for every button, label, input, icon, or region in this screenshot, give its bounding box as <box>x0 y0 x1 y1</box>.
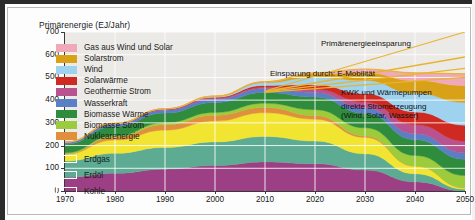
legend-swatch-icon <box>56 55 77 63</box>
legend-item-fossil-1[interactable]: Erdöl <box>56 167 110 183</box>
scan-edge-left <box>0 0 5 220</box>
legend-swatch-icon <box>56 88 77 96</box>
legend-item-3[interactable]: Solarwärme <box>56 75 173 86</box>
annotation-primaerenergieeinsparung: Primärenergieeinsparung <box>321 39 411 48</box>
legend: Gas aus Wind und SolarSolarstromWindSola… <box>56 42 173 142</box>
legend-swatch-icon <box>56 44 77 52</box>
legend-label: Solarwärme <box>84 76 128 85</box>
legend-swatch-icon <box>56 132 77 140</box>
annotation-e-mobilitaet: Einsparung durch: E-Mobilität <box>270 69 375 78</box>
x-tick-2050: 2050 <box>449 195 475 204</box>
annotation-direkte-stromerzeugung: direkte Stromerzeugung <box>341 102 426 111</box>
annotation-kwk-waermepumpen: KWK und Wärmepumpen <box>341 88 432 97</box>
y-tick-200: 200 <box>35 141 59 150</box>
legend-label: Kohle <box>84 187 105 196</box>
legend-swatch-icon <box>56 66 77 74</box>
scan-edge-top <box>0 0 475 4</box>
legend-swatch-outline-icon <box>56 171 77 179</box>
legend-label: Erdöl <box>84 171 103 180</box>
chart-screenshot: Primärenergie (EJ/Jahr) 7006005004003002… <box>0 0 475 220</box>
x-tick-2000: 2000 <box>199 195 231 204</box>
legend-swatch-icon <box>56 121 77 129</box>
legend-item-2[interactable]: Wind <box>56 64 173 75</box>
y-tickmark <box>61 32 64 33</box>
x-tick-2020: 2020 <box>299 195 331 204</box>
figure-card: Primärenergie (EJ/Jahr) 7006005004003002… <box>7 7 471 215</box>
legend-item-4[interactable]: Geothermie Strom <box>56 86 173 97</box>
y-tickmark <box>61 146 64 147</box>
x-tickmark <box>315 191 316 194</box>
x-tick-2010: 2010 <box>249 195 281 204</box>
x-tickmark <box>465 191 466 194</box>
legend-item-7[interactable]: Biomasse Strom <box>56 120 173 131</box>
legend-swatch-outline-icon <box>56 187 77 195</box>
legend-swatch-icon <box>56 77 77 85</box>
legend-item-fossil-0[interactable]: Erdgas <box>56 151 110 167</box>
x-tickmark <box>215 191 216 194</box>
legend-label: Erdgas <box>84 155 110 164</box>
legend-item-5[interactable]: Wasserkraft <box>56 97 173 108</box>
legend-item-6[interactable]: Biomasse Wärme <box>56 109 173 120</box>
legend-fossil: ErdgasErdölKohle <box>56 151 110 199</box>
legend-label: Solarstrom <box>84 54 124 63</box>
x-tickmark <box>365 191 366 194</box>
x-tickmark <box>415 191 416 194</box>
y-tick-700: 700 <box>35 27 59 36</box>
x-tickmark <box>165 191 166 194</box>
legend-item-fossil-2[interactable]: Kohle <box>56 183 110 199</box>
legend-label: Wind <box>84 65 103 74</box>
legend-item-0[interactable]: Gas aus Wind und Solar <box>56 42 173 53</box>
x-tickmark <box>115 191 116 194</box>
legend-label: Biomasse Wärme <box>84 110 149 119</box>
legend-label: Wasserkraft <box>84 99 127 108</box>
legend-label: Geothermie Strom <box>84 87 151 96</box>
x-tick-2030: 2030 <box>349 195 381 204</box>
legend-swatch-icon <box>56 99 77 107</box>
annotation-direkte-stromerzeugung-sub: (Wind, Solar, Wasser) <box>341 111 419 120</box>
x-tickmark <box>265 191 266 194</box>
legend-swatch-outline-icon <box>56 155 77 163</box>
x-tick-2040: 2040 <box>399 195 431 204</box>
legend-item-8[interactable]: Nuklearenergie <box>56 131 173 142</box>
x-tick-1990: 1990 <box>149 195 181 204</box>
legend-label: Nuklearenergie <box>84 132 140 141</box>
legend-label: Biomasse Strom <box>84 121 144 130</box>
legend-item-1[interactable]: Solarstrom <box>56 53 173 64</box>
legend-label: Gas aus Wind und Solar <box>84 43 173 52</box>
legend-swatch-icon <box>56 110 77 118</box>
